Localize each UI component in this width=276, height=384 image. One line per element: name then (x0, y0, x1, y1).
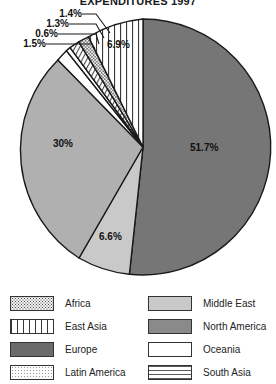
legend-swatch-latin-america-icon (10, 365, 54, 380)
legend-swatch-africa-icon (10, 296, 54, 311)
legend-label-east-asia: East Asia (65, 321, 107, 332)
legend-swatch-north-america-icon (148, 319, 192, 334)
legend-label-north-america: North America (203, 321, 266, 332)
legend-label-latin-america: Latin America (65, 367, 126, 378)
legend-item-middle-east[interactable]: Middle East (148, 292, 276, 315)
pie-chart-area: 51.7% 30% 6.6% 6.9% 1.4% 1.3% 0.6% 1.5% (0, 0, 276, 292)
legend-item-east-asia[interactable]: East Asia (10, 315, 148, 338)
legend-item-oceania[interactable]: Oceania (148, 338, 276, 361)
legend-label-south-asia: South Asia (203, 367, 251, 378)
legend-column-right: Middle East North America Oceania South … (148, 292, 276, 384)
slice-label-east-asia: 6.9% (107, 39, 130, 50)
legend-item-north-america[interactable]: North America (148, 315, 276, 338)
slice-label-middle-east: 6.6% (99, 231, 122, 242)
legend-label-middle-east: Middle East (203, 298, 255, 309)
legend-item-latin-america[interactable]: Latin America (10, 361, 148, 384)
slice-label-oceania: 1.5% (16, 38, 46, 49)
chart-legend: Africa East Asia Europe Latin America Mi… (0, 292, 276, 384)
legend-swatch-middle-east-icon (148, 296, 192, 311)
legend-column-left: Africa East Asia Europe Latin America (10, 292, 148, 384)
legend-label-oceania: Oceania (203, 344, 240, 355)
legend-swatch-east-asia-icon (10, 319, 54, 334)
pie-chart-figure: EXPENDITURES 1997 (0, 0, 276, 384)
legend-swatch-south-asia-icon (148, 365, 192, 380)
legend-label-europe: Europe (65, 344, 97, 355)
slice-label-north-america: 51.7% (190, 142, 218, 153)
legend-item-europe[interactable]: Europe (10, 338, 148, 361)
slice-label-europe: 30% (53, 138, 73, 149)
legend-item-south-asia[interactable]: South Asia (148, 361, 276, 384)
legend-label-africa: Africa (65, 298, 91, 309)
legend-item-africa[interactable]: Africa (10, 292, 148, 315)
legend-swatch-oceania-icon (148, 342, 192, 357)
legend-swatch-europe-icon (10, 342, 54, 357)
